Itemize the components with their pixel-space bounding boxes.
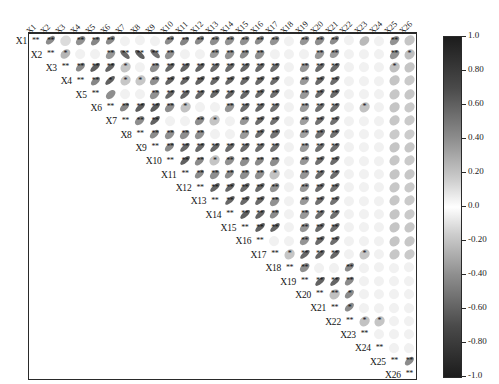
matrix-cell xyxy=(357,127,372,140)
correlation-ellipse xyxy=(282,113,297,128)
matrix-cell: ** xyxy=(387,47,402,60)
correlation-ellipse xyxy=(104,88,117,100)
significance-stars: * xyxy=(342,288,357,301)
matrix-cell: ** xyxy=(297,114,312,127)
significance-stars: ** xyxy=(192,127,207,140)
matrix-cell xyxy=(282,74,297,87)
significance-stars: ** xyxy=(207,61,222,74)
significance-stars: ** xyxy=(207,168,222,181)
matrix-cell xyxy=(342,34,357,47)
correlation-ellipse xyxy=(387,221,401,235)
matrix-cell xyxy=(402,127,417,140)
correlation-ellipse xyxy=(357,113,372,128)
matrix-cell: ** xyxy=(267,101,282,114)
matrix-cell: ** xyxy=(252,141,267,154)
matrix-cell: ** xyxy=(163,127,178,140)
colorbar-tick-label: 0.20 xyxy=(468,166,484,176)
matrix-cell: * xyxy=(207,114,222,127)
significance-stars: ** xyxy=(252,101,267,114)
matrix-cell xyxy=(402,61,417,74)
row-label-x12: X12 xyxy=(165,183,191,193)
matrix-cell xyxy=(312,261,327,274)
matrix-cell xyxy=(387,314,402,327)
significance-stars: ** xyxy=(297,87,312,100)
correlation-ellipse xyxy=(282,47,297,62)
significance-stars: ** xyxy=(327,208,342,221)
correlation-ellipse xyxy=(402,300,417,314)
correlation-ellipse xyxy=(282,154,297,169)
matrix-cell: ** xyxy=(297,181,312,194)
matrix-cell: ** xyxy=(312,74,327,87)
correlation-ellipse xyxy=(282,220,297,235)
matrix-cell: ** xyxy=(222,168,237,181)
matrix-cell xyxy=(73,47,88,60)
correlation-ellipse xyxy=(357,207,372,221)
row-label-x9: X9 xyxy=(121,143,147,153)
matrix-cell xyxy=(372,74,387,87)
significance-stars: * xyxy=(357,101,372,114)
correlation-ellipse xyxy=(387,234,401,248)
significance-stars: ** xyxy=(118,114,133,127)
significance-stars: ** xyxy=(327,141,342,154)
matrix-cell: ** xyxy=(312,87,327,100)
significance-stars: * xyxy=(133,74,148,87)
significance-stars: ** xyxy=(73,74,88,87)
matrix-cell xyxy=(357,34,372,47)
correlation-ellipse xyxy=(357,127,372,141)
matrix-cell: ** xyxy=(327,168,342,181)
significance-stars: * xyxy=(207,114,222,127)
significance-stars: ** xyxy=(342,261,357,274)
matrix-cell xyxy=(282,181,297,194)
matrix-cell: ** xyxy=(103,101,118,114)
matrix-cell xyxy=(282,127,297,140)
significance-stars: ** xyxy=(267,194,282,207)
matrix-cell xyxy=(402,261,417,274)
significance-stars: ** xyxy=(267,181,282,194)
matrix-cell: ** xyxy=(327,248,342,261)
matrix-cell xyxy=(118,87,133,100)
significance-stars: ** xyxy=(327,127,342,140)
significance-stars: ** xyxy=(207,87,222,100)
significance-stars: ** xyxy=(133,101,148,114)
matrix-cell: ** xyxy=(297,101,312,114)
matrix-cell: ** xyxy=(312,141,327,154)
matrix-cell: ** xyxy=(103,47,118,60)
matrix-cell: ** xyxy=(387,34,402,47)
significance-stars: ** xyxy=(222,47,237,60)
matrix-cell: ** xyxy=(237,87,252,100)
matrix-cell: ** xyxy=(252,114,267,127)
significance-stars: ** xyxy=(163,74,178,87)
matrix-cell xyxy=(357,87,372,100)
significance-stars: ** xyxy=(297,141,312,154)
matrix-cell: ** xyxy=(342,274,357,287)
significance-stars: ** xyxy=(192,114,207,127)
matrix-cell xyxy=(372,141,387,154)
significance-stars: ** xyxy=(267,127,282,140)
matrix-cell: ** xyxy=(267,154,282,167)
significance-stars: ** xyxy=(163,87,178,100)
correlation-ellipse xyxy=(88,47,102,61)
matrix-cell xyxy=(357,154,372,167)
matrix-cell xyxy=(387,234,402,247)
matrix-cell: ** xyxy=(252,47,267,60)
matrix-cell: ** xyxy=(312,181,327,194)
significance-stars: ** xyxy=(163,61,178,74)
matrix-cell: ** xyxy=(163,154,178,167)
row-label-x23: X23 xyxy=(330,330,356,340)
matrix-cell: ** xyxy=(252,74,267,87)
matrix-cell: ** xyxy=(297,168,312,181)
matrix-cell: ** xyxy=(402,368,417,381)
matrix-cell: ** xyxy=(252,127,267,140)
significance-stars: * xyxy=(118,61,133,74)
correlation-ellipse xyxy=(387,327,402,341)
matrix-cell: ** xyxy=(327,301,342,314)
matrix-cell: * xyxy=(118,74,133,87)
matrix-cell: ** xyxy=(178,74,193,87)
significance-stars: ** xyxy=(357,328,372,341)
significance-stars: ** xyxy=(387,354,402,367)
significance-stars: ** xyxy=(237,181,252,194)
matrix-cell: ** xyxy=(237,141,252,154)
significance-stars: ** xyxy=(297,248,312,261)
matrix-cell: ** xyxy=(297,194,312,207)
significance-stars: ** xyxy=(178,127,193,140)
